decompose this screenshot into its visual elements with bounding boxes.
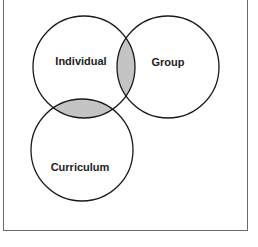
label-individual: Individual [55,55,106,67]
label-group: Group [152,56,185,68]
label-curriculum: Curriculum [51,161,110,173]
venn-diagram [0,0,258,247]
